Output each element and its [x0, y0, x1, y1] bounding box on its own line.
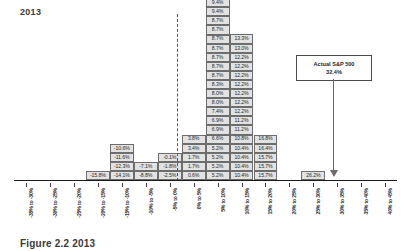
x-axis-tick: [26, 183, 27, 187]
bar-cell: 10.4%: [230, 171, 254, 180]
bar-cell: -15.8%: [86, 171, 110, 180]
bar-cell: 10.4%: [230, 162, 254, 171]
x-axis-tick-label: -20% to -15%: [100, 188, 106, 218]
x-axis-tick-label: -15% to -10%: [124, 188, 130, 218]
bar-cell: -12.3%: [110, 162, 134, 171]
x-axis-tick-label: 20% to 25%: [291, 188, 297, 215]
bar-column: 16.8%16.4%15.7%15.7%15.7%: [254, 135, 278, 181]
bars-container: -15.8%-10.6%-11.6%-12.3%-14.1%-7.1%-8.8%…: [0, 0, 409, 181]
bar-cell: 12.2%: [230, 71, 254, 80]
bar-cell: -2.5%: [158, 171, 182, 180]
x-axis-tick-label: -25% to -20%: [76, 188, 82, 218]
x-axis-tick-label: 0% to 5%: [196, 188, 202, 209]
bar-cell: 9.4%: [206, 0, 230, 7]
bar-column: -15.8%: [86, 171, 110, 180]
bar-cell: 8.7%: [206, 62, 230, 71]
x-axis-tick-label: 15% to 20%: [267, 188, 273, 215]
bar-cell: 8.0%: [206, 98, 230, 107]
x-axis-tick-label: -30% to -25%: [52, 188, 58, 218]
zero-reference-line: [177, 14, 178, 181]
bar-cell: 0.6%: [182, 171, 206, 180]
x-axis-tick: [242, 183, 243, 187]
bar-cell: 1.7%: [182, 162, 206, 171]
actual-return-callout: Actual S&P 500 32.4%: [296, 55, 372, 81]
bar-column: 26.2%: [301, 171, 325, 180]
x-axis-tick: [313, 183, 314, 187]
bar-cell: 9.4%: [206, 7, 230, 16]
x-axis-tick: [170, 183, 171, 187]
x-axis-tick-label: 10% to 15%: [244, 188, 250, 215]
bar-cell: 5.2%: [206, 162, 230, 171]
bar-column: -7.1%-8.8%: [134, 162, 158, 180]
bar-cell: 15.7%: [254, 153, 278, 162]
x-axis-tick-label: -10% to -5%: [148, 188, 154, 215]
bar-cell: -1.8%: [158, 162, 182, 171]
bar-cell: 8.3%: [206, 80, 230, 89]
x-axis-tick-label: -5% to 0%: [172, 188, 178, 211]
bar-cell: 15.7%: [254, 162, 278, 171]
bar-cell: 10.8%: [230, 135, 254, 144]
bar-cell: -11.6%: [110, 153, 134, 162]
x-axis-tick-label: 40% to 45%: [387, 188, 393, 215]
x-axis-tick: [289, 183, 290, 187]
bar-cell: 8.7%: [206, 35, 230, 44]
x-axis-tick-label: -35% to -30%: [28, 188, 34, 218]
bar-cell: 11.2%: [230, 116, 254, 125]
bar-cell: 6.6%: [206, 135, 230, 144]
bar-cell: 16.4%: [254, 144, 278, 153]
x-axis-tick: [98, 183, 99, 187]
bar-cell: 12.2%: [230, 89, 254, 98]
bar-cell: 8.7%: [206, 16, 230, 25]
bar-cell: -14.1%: [110, 171, 134, 180]
callout-line-1: Actual S&P 500: [299, 60, 369, 68]
figure-caption: Figure 2.2 2013: [20, 238, 95, 249]
x-axis-tick-label: 5% to 10%: [220, 188, 226, 212]
bar-cell: 12.2%: [230, 62, 254, 71]
x-axis-tick-label: 25% to 30%: [315, 188, 321, 215]
bar-cell: 1.7%: [182, 153, 206, 162]
x-axis-tick: [218, 183, 219, 187]
x-axis-tick: [265, 183, 266, 187]
x-axis-tick: [146, 183, 147, 187]
bar-column: -10.6%-11.6%-12.3%-14.1%: [110, 144, 134, 180]
bar-cell: 16.8%: [254, 135, 278, 144]
bar-cell: 3.4%: [182, 144, 206, 153]
bar-column: 13.3%13.0%12.2%12.2%12.2%12.2%12.2%12.2%…: [230, 34, 254, 180]
bar-cell: 12.2%: [230, 80, 254, 89]
bar-cell: 8.7%: [206, 53, 230, 62]
bar-column: 9.4%9.4%8.7%8.7%8.7%8.7%8.7%8.7%8.7%8.3%…: [206, 0, 230, 180]
callout-arrow-line: [333, 79, 334, 172]
bar-cell: 10.4%: [230, 144, 254, 153]
bar-cell: 26.2%: [301, 171, 325, 180]
bar-column: -0.1%-1.8%-2.5%: [158, 153, 182, 180]
bar-cell: -8.8%: [134, 171, 158, 180]
bar-cell: 15.7%: [254, 171, 278, 180]
callout-arrow-head-icon: [330, 170, 338, 177]
x-axis-tick: [337, 183, 338, 187]
bar-cell: 5.2%: [206, 144, 230, 153]
histogram-chart: 2013 -15.8%-10.6%-11.6%-12.3%-14.1%-7.1%…: [0, 0, 409, 251]
bar-cell: 13.0%: [230, 44, 254, 53]
x-axis-labels: -35% to -30%-30% to -25%-25% to -20%-20%…: [0, 181, 409, 233]
bar-cell: 13.3%: [230, 34, 254, 43]
bar-cell: 8.7%: [206, 44, 230, 53]
bar-cell: 8.0%: [206, 89, 230, 98]
bar-cell: -7.1%: [134, 162, 158, 171]
x-axis-tick: [361, 183, 362, 187]
x-axis-tick: [385, 183, 386, 187]
bar-cell: 11.2%: [230, 125, 254, 134]
bar-cell: 3.8%: [182, 135, 206, 144]
x-axis-tick: [122, 183, 123, 187]
bar-cell: 7.4%: [206, 107, 230, 116]
x-axis-tick: [74, 183, 75, 187]
bar-column: 3.8%3.4%1.7%1.7%0.6%: [182, 135, 206, 181]
bar-cell: -10.6%: [110, 144, 134, 153]
bar-cell: 5.2%: [206, 171, 230, 180]
x-axis-tick: [50, 183, 51, 187]
bar-cell: 12.2%: [230, 107, 254, 116]
bar-cell: 8.7%: [206, 25, 230, 34]
bar-cell: 6.9%: [206, 116, 230, 125]
callout-line-2: 32.4%: [299, 68, 369, 76]
bar-cell: -0.1%: [158, 153, 182, 162]
bar-cell: 12.2%: [230, 98, 254, 107]
